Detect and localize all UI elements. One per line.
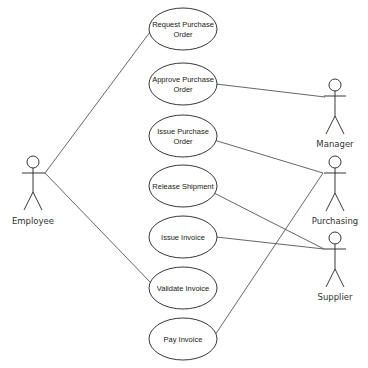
use-case-label: Order (173, 30, 193, 39)
assoc-supplier-release-shipment (214, 193, 324, 249)
use-case-validate-invoice[interactable]: Validate Invoice (149, 267, 217, 309)
actor-label: Purchasing (312, 216, 359, 226)
stick-figure-icon (324, 156, 346, 211)
use-case-issue-po[interactable]: Issue Purchase Order (149, 115, 217, 157)
use-case-label: Issue Invoice (161, 233, 205, 242)
use-case-label: Release Shipment (152, 182, 214, 191)
assoc-employee-validate-invoice (45, 173, 151, 283)
actor-purchasing[interactable]: Purchasing (312, 156, 359, 226)
use-case-pay-invoice[interactable]: Pay Invoice (149, 318, 217, 360)
use-case-label: Request Purchase (152, 20, 214, 29)
use-case-label: Order (173, 137, 193, 146)
stick-figure-icon (22, 156, 45, 210)
actor-employee[interactable]: Employee (12, 156, 54, 226)
use-case-approve-po[interactable]: Approve Purchase Order (149, 63, 217, 105)
assoc-purchasing-pay-invoice (215, 173, 323, 335)
use-case-release-shipment[interactable]: Release Shipment (149, 165, 217, 207)
use-case-label: Approve Purchase (152, 75, 214, 84)
assoc-purchasing-issue-po (214, 140, 323, 173)
use-case-label: Pay Invoice (164, 335, 203, 344)
assoc-manager-approve-po (216, 84, 325, 97)
actor-label: Supplier (317, 292, 353, 302)
use-case-label: Validate Invoice (157, 284, 209, 293)
use-case-label: Order (173, 85, 193, 94)
assoc-employee-request-po (45, 32, 150, 173)
actor-supplier[interactable]: Supplier (317, 232, 353, 302)
use-case-label: Issue Purchase (157, 127, 209, 136)
actor-label: Employee (12, 216, 54, 226)
actor-manager[interactable]: Manager (316, 79, 354, 149)
actor-label: Manager (316, 139, 354, 149)
use-case-request-po[interactable]: Request Purchase Order (149, 8, 217, 50)
stick-figure-icon (324, 232, 346, 287)
assoc-supplier-issue-invoice (216, 237, 324, 249)
use-case-issue-invoice[interactable]: Issue Invoice (149, 216, 217, 258)
use-case-diagram: Request Purchase Order Approve Purchase … (0, 0, 368, 368)
stick-figure-icon (324, 79, 346, 134)
